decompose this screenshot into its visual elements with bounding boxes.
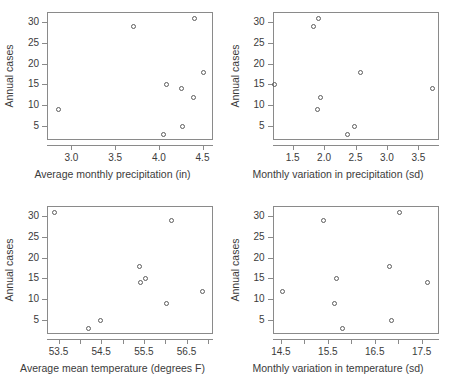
data-point bbox=[164, 301, 169, 306]
panel-3-plot-area bbox=[273, 206, 439, 334]
panel-3-x-tick-label: 15.5 bbox=[318, 347, 337, 357]
data-point bbox=[334, 276, 339, 281]
data-point bbox=[191, 95, 196, 100]
panel-0-x-axis: 3.03.54.04.5 bbox=[47, 145, 213, 151]
panel-1-y-tick-label: 25 bbox=[253, 38, 264, 48]
panel-1-y-tick-label: 20 bbox=[253, 59, 264, 69]
panel-2-x-tick-label: 55.5 bbox=[134, 347, 153, 357]
data-point bbox=[138, 280, 143, 285]
data-point bbox=[387, 264, 392, 269]
panel-2-x-minor-tick bbox=[80, 339, 81, 344]
panel-0-y-tick-label: 20 bbox=[28, 59, 39, 69]
panel-3-x-tick-label: 17.5 bbox=[412, 347, 431, 357]
panel-3-x-minor-tick bbox=[304, 339, 305, 344]
panel-1-data-points bbox=[274, 13, 438, 139]
data-point bbox=[397, 210, 402, 215]
panel-2-x-minor-tick bbox=[123, 339, 124, 344]
data-point bbox=[316, 16, 321, 21]
panel-3-x-tick bbox=[422, 339, 423, 344]
panel-0-y-tick-label: 25 bbox=[28, 38, 39, 48]
panel-0-x-axis-label: Average monthly precipitation (in) bbox=[0, 168, 225, 180]
panel-1-x-tick bbox=[387, 145, 388, 150]
panel-2-y-tick-label: 15 bbox=[28, 273, 39, 283]
data-point bbox=[425, 280, 430, 285]
panel-3-x-tick bbox=[281, 339, 282, 344]
data-point bbox=[56, 107, 61, 112]
panel-2-x-tick bbox=[101, 339, 102, 344]
panel-2-plot-area bbox=[47, 206, 213, 334]
panel-2-x-tick bbox=[187, 339, 188, 344]
panel-1-plot-area bbox=[273, 12, 439, 140]
panel-1-x-tick bbox=[293, 145, 294, 150]
panel-0-y-axis-label: Annual cases bbox=[2, 12, 16, 140]
data-point bbox=[358, 70, 363, 75]
panel-3-x-tick bbox=[328, 339, 329, 344]
panel-1-x-tick bbox=[356, 145, 357, 150]
panel-0-y-tick-label: 30 bbox=[28, 17, 39, 27]
panel-1-x-tick bbox=[418, 145, 419, 150]
panel-3-y-tick-label: 30 bbox=[253, 211, 264, 221]
panel-0-y-tick-label: 15 bbox=[28, 79, 39, 89]
data-point bbox=[389, 318, 394, 323]
panel-0-y-tick-label: 5 bbox=[33, 121, 39, 131]
panel-1-y-tick-label: 5 bbox=[259, 121, 265, 131]
data-point bbox=[169, 218, 174, 223]
panel-0-x-tick-label: 3.0 bbox=[65, 153, 79, 163]
data-point bbox=[192, 16, 197, 21]
data-point bbox=[86, 326, 91, 331]
panel-precipitation-variation: Annual cases 51015202530 1.52.02.53.03.5… bbox=[226, 0, 451, 194]
panel-1-x-tick-label: 1.5 bbox=[286, 153, 300, 163]
panel-2-y-tick-label: 30 bbox=[28, 211, 39, 221]
data-point bbox=[137, 264, 142, 269]
panel-0-data-points bbox=[48, 13, 212, 139]
panel-3-y-tick-label: 25 bbox=[253, 232, 264, 242]
data-point bbox=[179, 86, 184, 91]
panel-1-x-tick-label: 3.0 bbox=[380, 153, 394, 163]
data-point bbox=[180, 124, 185, 129]
data-point bbox=[272, 82, 277, 87]
panel-temperature-variation: Annual cases 51015202530 14.515.516.517.… bbox=[226, 194, 451, 388]
data-point bbox=[201, 70, 206, 75]
panel-0-y-tick-label: 10 bbox=[28, 100, 39, 110]
panel-1-y-tick-label: 15 bbox=[253, 79, 264, 89]
panel-3-data-points bbox=[274, 207, 438, 333]
panel-1-x-tick bbox=[324, 145, 325, 150]
panel-3-x-tick-label: 14.5 bbox=[271, 347, 290, 357]
panel-2-x-tick bbox=[59, 339, 60, 344]
panel-3-y-tick-label: 15 bbox=[253, 273, 264, 283]
panel-precipitation-mean: Annual cases 51015202530 3.03.54.04.5 Av… bbox=[0, 0, 225, 194]
panel-2-x-tick-label: 53.5 bbox=[49, 347, 68, 357]
data-point bbox=[280, 289, 285, 294]
panel-0-x-tick-label: 3.5 bbox=[108, 153, 122, 163]
panel-3-x-tick bbox=[375, 339, 376, 344]
panel-3-x-axis-label: Monthly variation in temperature (sd) bbox=[226, 362, 451, 374]
panel-2-data-points bbox=[48, 207, 212, 333]
panel-2-y-tick-label: 10 bbox=[28, 294, 39, 304]
panel-1-x-tick-label: 3.5 bbox=[411, 153, 425, 163]
panel-1-x-tick-label: 2.0 bbox=[317, 153, 331, 163]
panel-0-x-tick bbox=[203, 145, 204, 150]
data-point bbox=[345, 132, 350, 137]
panel-0-x-tick-label: 4.0 bbox=[152, 153, 166, 163]
data-point bbox=[98, 318, 103, 323]
panel-1-x-axis: 1.52.02.53.03.5 bbox=[273, 145, 439, 151]
panel-3-x-minor-tick bbox=[398, 339, 399, 344]
panel-3-y-tick-label: 20 bbox=[253, 253, 264, 263]
panel-2-y-tick-label: 20 bbox=[28, 253, 39, 263]
panel-3-x-tick-label: 16.5 bbox=[365, 347, 384, 357]
panel-2-x-tick bbox=[144, 339, 145, 344]
data-point bbox=[430, 86, 435, 91]
panel-0-x-tick bbox=[71, 145, 72, 150]
scatter-plot-matrix: Annual cases 51015202530 3.03.54.04.5 Av… bbox=[0, 0, 451, 388]
panel-0-x-tick bbox=[159, 145, 160, 150]
data-point bbox=[340, 326, 345, 331]
panel-2-x-axis: 53.554.555.556.5 bbox=[47, 339, 213, 345]
panel-3-x-axis: 14.515.516.517.5 bbox=[273, 339, 439, 345]
panel-2-x-tick-label: 56.5 bbox=[177, 347, 196, 357]
data-point bbox=[164, 82, 169, 87]
panel-2-y-tick-label: 25 bbox=[28, 232, 39, 242]
panel-0-x-tick bbox=[115, 145, 116, 150]
data-point bbox=[315, 107, 320, 112]
panel-temperature-mean: Annual cases 51015202530 53.554.555.556.… bbox=[0, 194, 225, 388]
panel-1-y-axis-label: Annual cases bbox=[228, 12, 242, 140]
